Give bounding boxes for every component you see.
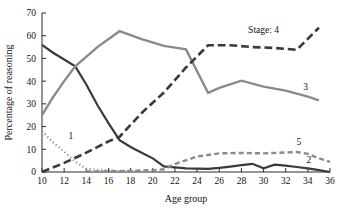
x-tick-label: 30 bbox=[259, 176, 269, 186]
y-tick-label: 20 bbox=[27, 122, 37, 132]
x-tick-label: 10 bbox=[37, 176, 47, 186]
y-tick-label: 40 bbox=[27, 77, 37, 87]
x-tick-label: 28 bbox=[237, 176, 247, 186]
series-label-5: 5 bbox=[297, 137, 302, 147]
y-axis-title: Percentage of reasoning bbox=[3, 44, 14, 140]
series-label-2: 2 bbox=[307, 155, 312, 165]
line-chart-svg: 1012141618202224262830323436 01020304050… bbox=[0, 0, 343, 210]
series-annotations-group: 123Stage: 45 bbox=[68, 25, 311, 164]
chart-figure: 1012141618202224262830323436 01020304050… bbox=[0, 0, 343, 210]
y-tick-label: 60 bbox=[27, 31, 37, 41]
tick-marks-group bbox=[42, 13, 330, 172]
x-axis-title: Age group bbox=[165, 193, 208, 204]
series-label-1: 1 bbox=[68, 131, 73, 141]
y-tick-label: 10 bbox=[27, 145, 37, 155]
x-tick-label: 20 bbox=[148, 176, 158, 186]
y-tick-labels: 010203040506070 bbox=[27, 8, 37, 177]
x-tick-label: 16 bbox=[104, 176, 114, 186]
y-tick-label: 70 bbox=[27, 8, 37, 18]
x-tick-label: 14 bbox=[82, 176, 92, 186]
series-label-4: Stage: 4 bbox=[248, 25, 279, 35]
x-tick-label: 22 bbox=[170, 176, 180, 186]
x-tick-label: 34 bbox=[303, 176, 313, 186]
y-tick-label: 30 bbox=[27, 99, 37, 109]
y-tick-label: 50 bbox=[27, 54, 37, 64]
x-tick-label: 24 bbox=[192, 176, 202, 186]
series-label-3: 3 bbox=[303, 82, 308, 92]
y-tick-label: 0 bbox=[31, 167, 36, 177]
axes-group bbox=[42, 13, 330, 172]
series-line-3 bbox=[42, 31, 319, 115]
x-tick-labels: 1012141618202224262830323436 bbox=[37, 176, 335, 186]
x-tick-label: 36 bbox=[325, 176, 335, 186]
x-tick-label: 32 bbox=[281, 176, 291, 186]
x-tick-label: 26 bbox=[214, 176, 224, 186]
x-tick-label: 12 bbox=[59, 176, 69, 186]
x-tick-label: 18 bbox=[126, 176, 136, 186]
data-series-group bbox=[42, 28, 330, 172]
